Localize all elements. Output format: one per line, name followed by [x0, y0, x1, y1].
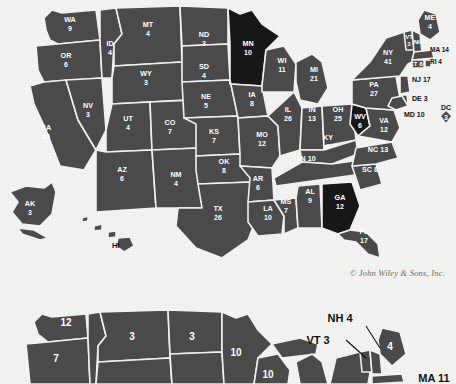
bottom-label-WI: 10 [262, 369, 274, 380]
bottom-state-MI-low[interactable] [296, 354, 328, 384]
label-MD: MD 10 [404, 111, 425, 118]
label-NC: NC 13 [368, 145, 388, 154]
label-WI-votes: 11 [278, 66, 286, 73]
label-MI: MI [310, 65, 318, 74]
bottom-label-MN: 10 [230, 347, 242, 358]
label-KS-votes: 7 [212, 137, 216, 144]
label-NJ: NJ 17 [412, 76, 431, 83]
label-NY-votes: 41 [384, 58, 392, 65]
label-SC: SC 8 [362, 165, 378, 174]
bottom-label-OR: 7 [53, 353, 59, 364]
label-RI: RI 4 [430, 58, 442, 65]
label-MT: MT [143, 20, 154, 29]
label-ME: ME [425, 13, 436, 22]
label-ND-votes: 3 [202, 40, 206, 47]
label-NM-votes: 4 [174, 180, 178, 187]
label-DE: DE 3 [412, 95, 428, 102]
bottom-label-WA: 12 [60, 317, 72, 328]
label-NV-votes: 3 [86, 111, 90, 118]
label-TN: TN 10 [296, 154, 316, 163]
label-CO: CO [165, 118, 176, 127]
label-MT-votes: 4 [146, 30, 150, 37]
label-FL: FL [360, 227, 369, 236]
label-OR-votes: 6 [64, 61, 68, 68]
label-NV: NV [83, 101, 93, 110]
label-IA: IA [248, 90, 255, 99]
label-WA: WA [64, 15, 76, 24]
label-CO-votes: 7 [168, 128, 172, 135]
label-IL-votes: 26 [284, 115, 292, 122]
label-PA: PA [369, 80, 378, 89]
label-VT: VT [405, 34, 413, 40]
state-HI-1[interactable] [82, 216, 88, 222]
label-FL-votes: 17 [360, 237, 368, 244]
label-WV-votes: 6 [358, 122, 362, 129]
label-GA-votes: 12 [336, 203, 344, 210]
label-MN-votes: 10 [244, 49, 252, 56]
label-PA-votes: 27 [370, 90, 378, 97]
label-CA: CA [41, 123, 51, 132]
label-MO-votes: 12 [258, 140, 266, 147]
bottom-label-NH: NH 4 [327, 312, 353, 324]
label-AK-votes: 3 [28, 209, 32, 216]
bottom-label-MA: MA 11 [418, 372, 449, 384]
label-LA: LA [263, 204, 273, 213]
bottom-label-MT: 3 [129, 331, 135, 342]
label-WY-votes: 3 [144, 79, 148, 86]
label-IA-votes: 8 [250, 100, 254, 107]
label-TX: TX [213, 204, 222, 213]
label-OR: OR [61, 51, 73, 60]
state-NJ[interactable] [400, 76, 410, 94]
leader-line-NH [366, 326, 380, 348]
label-ME-votes: 4 [428, 23, 432, 30]
label-OK-votes: 8 [222, 167, 226, 174]
label-KS: KS [209, 127, 219, 136]
bottom-state-SD[interactable] [170, 352, 224, 384]
state-AZ[interactable] [96, 150, 156, 212]
us-electoral-map-bottom: 12 7 3 3 10 10 4 NH 4 VT 3 MA 11 [0, 300, 456, 384]
label-AR: AR [253, 174, 264, 183]
label-GA: GA [335, 193, 346, 202]
label-SD: SD [199, 62, 209, 71]
label-CA-votes: 45 [42, 133, 50, 140]
label-WI: WI [278, 56, 287, 65]
label-VA-votes: 12 [380, 126, 388, 133]
label-NY: NY [383, 48, 393, 57]
label-CT: CT 8 [409, 61, 423, 67]
label-DC-votes: 3 [444, 114, 448, 121]
state-AK-aleutians[interactable] [18, 228, 48, 240]
bottom-state-MA[interactable] [372, 374, 404, 384]
label-MA: MA 14 [430, 46, 449, 53]
label-ID-votes: 4 [108, 49, 112, 56]
label-VA: VA [379, 116, 388, 125]
label-AZ-votes: 6 [120, 175, 124, 182]
label-UT-votes: 4 [126, 124, 130, 131]
label-OK: OK [219, 157, 231, 166]
bottom-label-ME: 4 [387, 341, 393, 352]
label-SD-votes: 4 [202, 72, 206, 79]
state-OR[interactable] [36, 40, 102, 82]
label-LA-votes: 10 [264, 214, 272, 221]
label-ID: ID [106, 39, 113, 48]
label-WV: WV [354, 112, 366, 121]
top-map-svg: WA 9 OR 6 CA 45 NV 3 ID 4 MT 4 WY 3 UT 4… [0, 0, 456, 292]
state-HI-3[interactable] [108, 231, 116, 238]
label-AR-votes: 6 [256, 184, 260, 191]
bottom-state-WY[interactable] [96, 358, 172, 384]
label-AL-votes: 9 [308, 197, 312, 204]
label-MO: MO [256, 130, 268, 139]
label-IN-votes: 13 [308, 115, 316, 122]
state-HI-2[interactable] [94, 224, 102, 231]
label-UT: UT [123, 114, 133, 123]
label-IL: IL [285, 105, 292, 114]
label-NE: NE [201, 92, 211, 101]
label-HI: HI [112, 241, 120, 250]
label-KY-votes: 9 [326, 143, 330, 150]
figure-page: WA 9 OR 6 CA 45 NV 3 ID 4 MT 4 WY 3 UT 4… [0, 0, 456, 384]
label-MS-votes: 7 [284, 207, 288, 214]
label-AZ: AZ [117, 165, 127, 174]
bottom-state-ND[interactable] [168, 310, 222, 354]
label-MI-votes: 21 [310, 75, 318, 82]
label-AK: AK [25, 199, 36, 208]
label-TX-votes: 26 [214, 214, 222, 221]
